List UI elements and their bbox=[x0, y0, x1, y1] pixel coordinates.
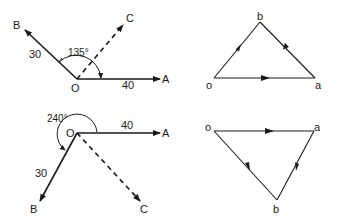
bottom-triangle-arrow-ab bbox=[295, 162, 299, 171]
bottom-triangle-side-ob bbox=[214, 131, 277, 200]
bottom-triangle-diagram: o a b bbox=[205, 121, 321, 215]
top-triangle-side-ab bbox=[260, 22, 315, 78]
top-vector-b-label: B bbox=[13, 19, 20, 31]
bottom-vector-c-label: C bbox=[140, 203, 148, 215]
bottom-triangle-vertex-b: b bbox=[273, 203, 279, 215]
top-triangle-arrow-oa bbox=[261, 75, 270, 81]
top-vector-c-label: C bbox=[126, 12, 134, 24]
top-angle-arc bbox=[59, 55, 101, 78]
top-triangle-diagram: o a b bbox=[206, 10, 322, 91]
top-triangle-vertex-o: o bbox=[206, 79, 212, 91]
top-triangle-vertex-a: a bbox=[315, 79, 322, 91]
bottom-vector-c-resultant bbox=[77, 133, 140, 201]
top-origin-label: O bbox=[71, 82, 80, 94]
bottom-origin-label: O bbox=[66, 127, 75, 139]
bottom-vector-diagram: O A 40 B 30 C 240° bbox=[30, 113, 170, 215]
bottom-vector-b-magnitude: 30 bbox=[35, 167, 47, 179]
bottom-vector-b-label: B bbox=[30, 203, 37, 215]
bottom-vector-a-label: A bbox=[162, 127, 170, 139]
top-vector-a-label: A bbox=[162, 73, 170, 85]
bottom-angle-label: 240° bbox=[47, 113, 68, 124]
bottom-triangle-vertex-o: o bbox=[205, 121, 211, 133]
vector-addition-figure: O A 40 B 30 C 135° O A 40 B 30 C 240° o … bbox=[0, 0, 337, 224]
top-vector-b-magnitude: 30 bbox=[29, 48, 41, 60]
bottom-triangle-vertex-a: a bbox=[314, 121, 321, 133]
bottom-triangle-arrow-oa bbox=[265, 128, 274, 134]
top-vector-diagram: O A 40 B 30 C 135° bbox=[13, 12, 170, 94]
top-triangle-vertex-b: b bbox=[257, 10, 263, 22]
bottom-vector-a-magnitude: 40 bbox=[121, 119, 133, 131]
top-angle-label: 135° bbox=[68, 47, 89, 58]
top-vector-a-magnitude: 40 bbox=[122, 79, 134, 91]
